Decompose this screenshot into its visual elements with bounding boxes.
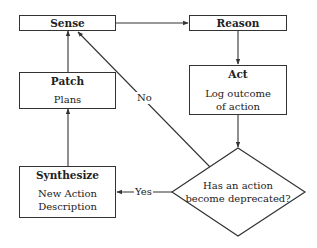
edge-label-no: No: [136, 92, 153, 104]
node-synthesize-title: Synthesize: [20, 169, 115, 182]
node-act-body-line2: of action: [190, 101, 286, 114]
node-reason-title: Reason: [190, 16, 286, 30]
node-patch-title: Patch: [20, 75, 115, 88]
node-patch-body: Plans: [20, 94, 115, 107]
edge-label-yes: Yes: [134, 186, 153, 198]
node-synthesize: Synthesize New Action Description: [19, 166, 116, 218]
node-act: Act Log outcome of action: [189, 65, 287, 115]
decision-text: Has an action become deprecated?: [180, 180, 296, 205]
node-synthesize-body-line1: New Action: [20, 188, 115, 201]
node-reason: Reason: [189, 15, 287, 31]
node-act-body-line1: Log outcome: [190, 88, 286, 101]
node-patch: Patch Plans: [19, 72, 116, 109]
node-synthesize-body-line2: Description: [20, 201, 115, 214]
node-act-title: Act: [190, 68, 286, 81]
decision-text-line2: become deprecated?: [180, 193, 296, 206]
node-sense: Sense: [19, 15, 116, 31]
node-sense-title: Sense: [20, 16, 115, 30]
decision-text-line1: Has an action: [180, 180, 296, 193]
